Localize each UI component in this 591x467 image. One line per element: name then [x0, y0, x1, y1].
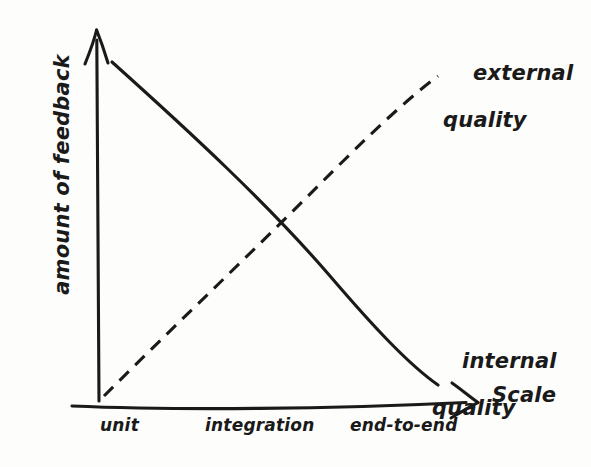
y-axis-line	[97, 40, 99, 401]
x-tick-label-unit: unit	[100, 416, 139, 435]
sketch-chart-figure: amount of feedback Scale unit integratio…	[0, 0, 591, 467]
external-quality-curve	[104, 76, 438, 396]
series-label-external-quality: external quality	[443, 38, 573, 179]
x-axis-line	[72, 403, 466, 409]
series-label-external-line2: quality	[443, 109, 573, 133]
series-label-internal-quality: internal quality	[432, 326, 557, 467]
x-tick-label-integration: integration	[205, 416, 315, 435]
series-label-internal-line2: quality	[432, 397, 557, 421]
y-axis-title: amount of feedback	[51, 65, 75, 295]
series-label-external-line1: external	[473, 61, 573, 85]
series-label-internal-line1: internal	[462, 349, 557, 373]
y-axis-arrowhead	[85, 30, 97, 64]
internal-quality-curve	[112, 62, 438, 385]
